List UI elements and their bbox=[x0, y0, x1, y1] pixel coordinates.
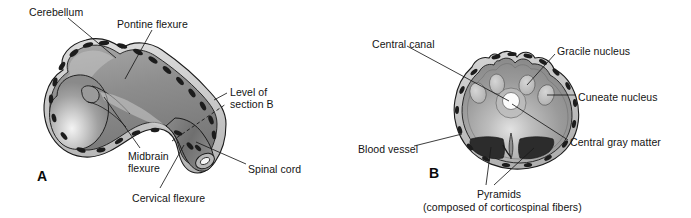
label-central-gray-matter: Central gray matter bbox=[570, 136, 661, 149]
leader-blood-vessel bbox=[414, 134, 462, 146]
label-pontine-flexure: Pontine flexure bbox=[117, 18, 188, 31]
anatomy-figure: Cerebellum Pontine flexure Level of sect… bbox=[0, 0, 691, 218]
label-midbrain-flexure-second-line: flexure bbox=[128, 162, 160, 175]
label-cerebellum: Cerebellum bbox=[29, 6, 83, 19]
panel-label-b: B bbox=[429, 165, 439, 181]
label-central-canal: Central canal bbox=[372, 38, 435, 51]
label-pyramids: Pyramids bbox=[477, 188, 521, 201]
label-cuneate-nucleus: Cuneate nucleus bbox=[578, 91, 658, 104]
panel-label-a: A bbox=[37, 168, 47, 184]
label-spinal-cord: Spinal cord bbox=[248, 163, 301, 176]
label-level-of: Level of bbox=[230, 86, 267, 99]
label-blood-vessel: Blood vessel bbox=[358, 143, 418, 156]
label-cervical-flexure: Cervical flexure bbox=[132, 192, 205, 205]
label-midbrain: Midbrain bbox=[128, 150, 169, 163]
label-gracile-nucleus: Gracile nucleus bbox=[557, 45, 630, 58]
label-section-b: section B bbox=[230, 98, 274, 111]
label-pyramids-note: (composed of corticospinal fibers) bbox=[423, 201, 582, 214]
figure-artwork bbox=[0, 0, 691, 218]
leader-level-section-b bbox=[214, 93, 227, 100]
